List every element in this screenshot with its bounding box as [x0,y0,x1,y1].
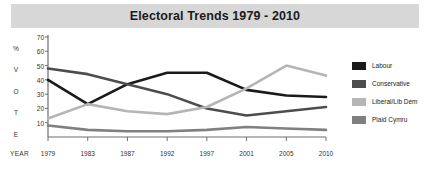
x-tick-label: 1983 [80,150,94,157]
page-title: Electoral Trends 1979 - 2010 [11,4,419,28]
chart-screenshot: Electoral Trends 1979 - 2010 % V O T E 7… [0,0,430,175]
series-line-conservative [48,68,326,115]
x-tick-label: 2010 [319,150,333,157]
y-axis-caption-letter: % [13,46,19,53]
y-axis-caption: % V O T E [10,46,22,138]
x-tick-label: 1979 [41,150,55,157]
legend-swatch [352,98,366,106]
legend-item: Labour [352,58,428,73]
legend-item: Conservative [352,76,428,91]
y-axis-caption-letter: V [14,67,18,74]
y-axis-caption-letter: O [13,89,18,96]
legend-label: Conservative [372,80,410,87]
legend-swatch [352,116,366,124]
x-tick-label: 1987 [120,150,134,157]
x-axis-tick-labels: 19791983198719921997200120052010 [0,150,340,164]
x-tick-label: 2005 [279,150,293,157]
legend-label: Labour [372,62,392,69]
y-axis-caption-letter: T [14,110,18,117]
chart-svg [26,33,331,148]
legend-item: Liberal/Lib Dem [352,94,428,109]
chart-legend: LabourConservativeLiberal/Lib DemPlaid C… [352,58,428,130]
legend-label: Liberal/Lib Dem [372,98,418,105]
line-chart [26,33,331,148]
plot-area: 70605040302010 [26,33,331,148]
series-line-labour [48,73,326,104]
title-band: Electoral Trends 1979 - 2010 [11,4,419,28]
x-tick-label: 1997 [200,150,214,157]
legend-swatch [352,80,366,88]
legend-label: Plaid Cymru [372,116,407,123]
legend-item: Plaid Cymru [352,112,428,127]
x-tick-label: 2001 [239,150,253,157]
x-tick-label: 1992 [160,150,174,157]
y-axis-caption-letter: E [14,132,18,139]
series-line-plaid-cymru [48,126,326,132]
legend-swatch [352,62,366,70]
